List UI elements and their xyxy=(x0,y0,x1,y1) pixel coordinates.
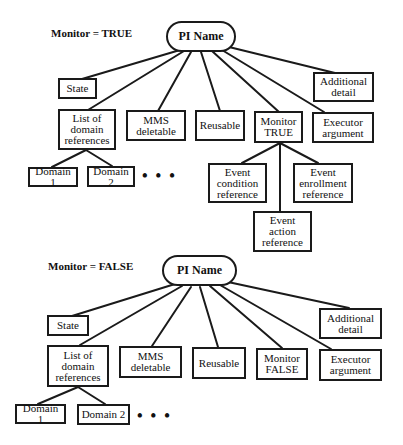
node-additional-detail: Additional detail xyxy=(319,308,382,339)
node-event-action-reference: Event action reference xyxy=(253,211,312,252)
ellipsis-more-domains: • • • xyxy=(137,411,172,421)
node-event-condition-reference: Event condition reference xyxy=(208,163,267,203)
node-reusable: Reusable xyxy=(195,110,245,141)
node-state: State xyxy=(58,78,97,99)
node-domain-list: List of domain references xyxy=(58,109,116,150)
node-reusable: Reusable xyxy=(192,347,246,379)
diagram-title-true: Monitor = TRUE xyxy=(51,27,132,39)
node-domain-2: Domain 2 xyxy=(87,166,135,187)
node-additional-detail: Additional detail xyxy=(313,72,374,102)
root-node-pi-name: PI Name xyxy=(162,255,237,286)
node-domain-list: List of domain references xyxy=(47,345,109,387)
node-domain-1: Domain 1 xyxy=(15,404,66,424)
node-domain-1: Domain 1 xyxy=(28,167,78,187)
node-monitor-true: Monitor TRUE xyxy=(254,111,303,143)
node-executor-argument: Executor argument xyxy=(319,349,382,381)
node-monitor-false: Monitor FALSE xyxy=(256,348,308,380)
node-executor-argument: Executor argument xyxy=(312,112,374,143)
node-mms-deletable: MMS deletable xyxy=(119,346,182,378)
diagram-title-false: Monitor = FALSE xyxy=(48,260,133,272)
node-state: State xyxy=(47,315,89,336)
ellipsis-more-domains: • • • xyxy=(142,171,177,181)
root-node-pi-name: PI Name xyxy=(166,21,236,52)
diagram-canvas: Monitor = TRUE PI Name State List of dom… xyxy=(0,0,403,445)
node-event-enrollment-reference: Event enrollment reference xyxy=(293,163,353,203)
node-mms-deletable: MMS deletable xyxy=(126,110,186,141)
node-domain-2: Domain 2 xyxy=(77,404,130,425)
